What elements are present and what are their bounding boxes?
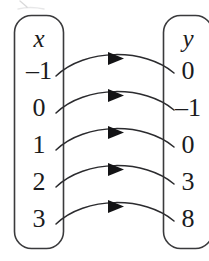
mapping-arrow-3: [56, 126, 174, 150]
range-value-0: 0: [182, 56, 195, 85]
clipped-text-artifact-icon: [18, 1, 44, 9]
range-value-2: 0: [182, 130, 195, 159]
range-value-1: –1: [174, 93, 201, 122]
mapping-diagram-figure: x –1 0 1 2 3 y 0 –1 0 3 8: [0, 0, 209, 261]
mapping-arrow-5: [56, 200, 174, 224]
mapping-arrow-2: [56, 89, 174, 113]
domain-value-4: 3: [33, 204, 46, 233]
mapping-diagram-canvas: x –1 0 1 2 3 y 0 –1 0 3 8: [0, 0, 209, 261]
domain-value-1: 0: [33, 93, 46, 122]
domain-header-label: x: [32, 25, 44, 52]
mapping-arrow-group: [56, 52, 174, 224]
mapping-arrow-1: [56, 52, 174, 76]
domain-value-2: 1: [33, 130, 46, 159]
mapping-arrow-4: [56, 163, 174, 187]
range-value-4: 8: [182, 204, 195, 233]
domain-value-0: –1: [25, 56, 52, 85]
range-header-label: y: [179, 25, 194, 52]
range-value-3: 3: [182, 167, 195, 196]
domain-value-3: 2: [33, 167, 46, 196]
